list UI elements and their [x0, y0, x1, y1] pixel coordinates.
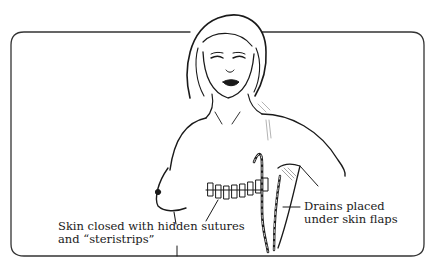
leader-line-skin: [206, 200, 218, 221]
label-skin-closure: Skin closed with hidden sutures and “ste…: [58, 220, 245, 246]
label-drains-line2: under skin flaps: [304, 213, 398, 226]
neck: [206, 94, 213, 118]
label-drains: Drains placed under skin flaps: [304, 200, 398, 226]
nipple: [155, 189, 160, 194]
face-outline: [203, 52, 254, 98]
breast-outline: [156, 168, 186, 211]
label-skin-line2: and “steristrips”: [58, 233, 245, 246]
lips: [223, 80, 239, 86]
right-eye: [233, 57, 245, 59]
medical-illustration: Skin closed with hidden sutures and “ste…: [0, 0, 435, 262]
right-shoulder: [262, 114, 345, 176]
steristrips: [206, 178, 268, 199]
drain-tube: [274, 176, 280, 250]
left-eye: [211, 57, 223, 59]
left-shoulder: [170, 118, 206, 170]
drain-tube: [254, 154, 268, 252]
